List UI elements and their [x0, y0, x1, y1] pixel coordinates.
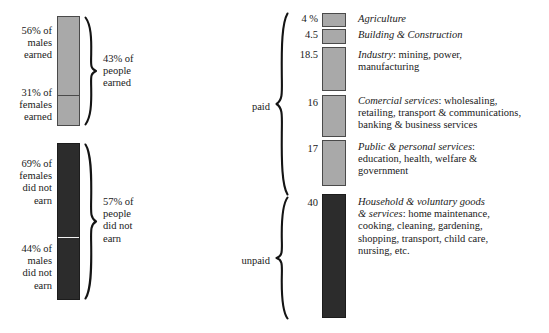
label-line: males	[0, 255, 52, 267]
bar-industry	[322, 47, 346, 91]
label-line: people	[103, 208, 165, 220]
desc-line: shopping, transport, child care,	[358, 233, 548, 245]
desc-title: Building & Construction	[358, 29, 462, 40]
label-line: males	[0, 37, 52, 49]
label-line: 43% of	[103, 53, 165, 65]
desc-line: : wholesaling,	[438, 95, 497, 106]
label-line: earn	[0, 280, 52, 292]
desc-title2: & services	[358, 208, 403, 219]
label-line: earn	[0, 195, 52, 207]
bar-building-construction	[322, 29, 346, 44]
brace-earned	[84, 16, 98, 126]
label-line: 57% of	[103, 196, 165, 208]
value-household-voluntary: 40	[278, 197, 318, 209]
desc-title: Household & voluntary goods	[358, 196, 485, 207]
bar-public-personal-services	[322, 140, 346, 186]
label-line: earned	[103, 77, 165, 89]
label-line: earned	[0, 111, 52, 123]
label-males-earned: 56% of males earned	[0, 25, 52, 62]
bar-earned	[57, 16, 80, 126]
label-line: did not	[103, 220, 165, 232]
desc-industry: Industry: mining, power, manufacturing	[358, 49, 548, 73]
desc-title: Agriculture	[358, 13, 406, 24]
desc-title: Industry	[358, 49, 393, 60]
desc-line: government	[358, 165, 548, 177]
desc-agriculture: Agriculture	[358, 13, 548, 25]
label-males-did-not-earn: 44% of males did not earn	[0, 243, 52, 292]
desc-line: cooking, cleaning, gardening,	[358, 220, 548, 232]
desc-line: banking & business services	[358, 119, 548, 131]
label-line: 56% of	[0, 25, 52, 37]
label-line: females	[0, 170, 52, 182]
desc-household-voluntary: Household & voluntary goods & services: …	[358, 196, 548, 257]
label-line: females	[0, 99, 52, 111]
group-label-paid: paid	[218, 101, 270, 113]
desc-title: Comercial services	[358, 95, 438, 106]
desc-line: retailing, transport & communications,	[358, 107, 548, 119]
desc-building-construction: Building & Construction	[358, 29, 548, 41]
desc-line: manufacturing	[358, 61, 548, 73]
bar-household-voluntary	[322, 194, 346, 318]
value-agriculture: 4 %	[278, 13, 318, 25]
bar-agriculture	[322, 13, 346, 27]
desc-line: : mining, power,	[393, 49, 462, 60]
desc-line: nursing, etc.	[358, 245, 548, 257]
value-industry: 18.5	[278, 49, 318, 61]
label-line: 69% of	[0, 158, 52, 170]
desc-public-personal-services: Public & personal services: education, h…	[358, 141, 548, 178]
label-did-not-earn-total: 57% of people did not earn	[103, 196, 165, 245]
label-females-did-not-earn: 69% of females did not earn	[0, 158, 52, 207]
label-line: did not	[0, 267, 52, 279]
label-line: 31% of	[0, 87, 52, 99]
label-line: earned	[0, 49, 52, 61]
desc-title: Public & personal services	[358, 141, 472, 152]
bar-did-not-earn-divider	[58, 237, 79, 238]
bar-earned-divider	[58, 95, 79, 96]
bar-did-not-earn	[57, 143, 80, 300]
desc-comercial-services: Comercial services: wholesaling, retaili…	[358, 95, 548, 132]
desc-line: :	[472, 141, 475, 152]
label-line: did not	[0, 182, 52, 194]
figure-canvas: 56% of males earned 31% of females earne…	[0, 0, 549, 333]
label-females-earned: 31% of females earned	[0, 87, 52, 124]
desc-line: : home maintenance,	[403, 208, 490, 219]
label-line: people	[103, 65, 165, 77]
value-public-personal-services: 17	[278, 143, 318, 155]
value-comercial-services: 16	[278, 97, 318, 109]
group-label-unpaid: unpaid	[218, 255, 270, 267]
label-earned-total: 43% of people earned	[103, 53, 165, 90]
label-line: 44% of	[0, 243, 52, 255]
label-line: earn	[103, 233, 165, 245]
bar-comercial-services	[322, 95, 346, 137]
value-building-construction: 4.5	[278, 29, 318, 41]
brace-unpaid	[274, 196, 289, 320]
brace-did-not-earn	[84, 143, 98, 300]
desc-line: education, health, welfare &	[358, 153, 548, 165]
